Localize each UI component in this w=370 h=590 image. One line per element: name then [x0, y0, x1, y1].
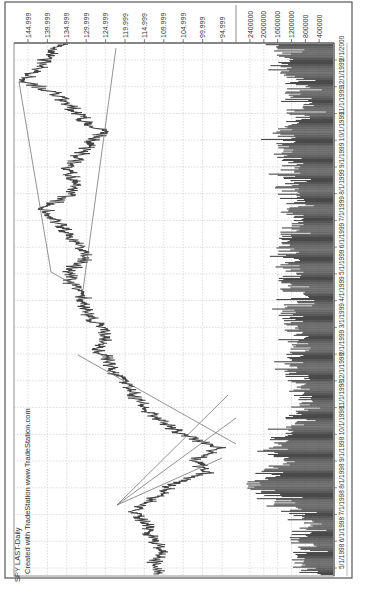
volume-tick-label: 400000 [316, 15, 323, 38]
price-tick-label: 139.999 [44, 13, 51, 38]
price-tick-label: 109.999 [160, 13, 167, 38]
date-tick-label: 10/1/1998 [338, 406, 345, 435]
date-tick-label: 6/1/1999 [338, 222, 345, 248]
date-tick-label: 11/1/1999 [338, 86, 345, 115]
price-tick-label: 134.999 [63, 13, 70, 38]
volume-tick-label: 1600000 [274, 11, 281, 38]
date-tick-label: 9/1/1998 [338, 436, 345, 462]
date-tick-label: 2/1/2000 [338, 35, 345, 61]
date-tick-label: 3/1/1999 [338, 303, 345, 329]
price-tick-label: 94.999 [219, 16, 226, 38]
date-tick-label: 11/1/1998 [338, 380, 345, 409]
price-tick-label: 104.999 [180, 13, 187, 38]
volume-tick-label: 2400000 [247, 11, 254, 38]
price-tick-label: 144.999 [25, 13, 32, 38]
price-tick-label: 124.999 [102, 13, 109, 38]
chart-credit: Created with TradeStation www.TradeStati… [23, 408, 32, 574]
date-tick-label: 5/1/1998 [338, 543, 345, 569]
date-tick-label: 8/1/1998 [338, 463, 345, 489]
date-tick-label: 4/1/1999 [338, 276, 345, 302]
date-tick-label: 7/1/1999 [338, 196, 345, 222]
chart: 144.999139.999134.999129.999124.999119.9… [0, 0, 370, 590]
date-tick-label: 12/1/1999 [338, 58, 345, 87]
volume-tick-label: 800000 [302, 15, 309, 38]
price-tick-label: 119.999 [122, 13, 129, 38]
date-tick-label: 12/1/1998 [338, 353, 345, 382]
date-tick-label: 7/1/1998 [338, 490, 345, 516]
date-tick-label: 10/1/1999 [338, 112, 345, 141]
date-tick-label: 2/1/1999 [338, 329, 345, 355]
price-tick-label: 114.999 [141, 13, 148, 38]
date-tick-label: 6/1/1998 [338, 517, 345, 543]
price-tick-label: 99.999 [199, 16, 206, 38]
date-tick-label: 8/1/1999 [338, 169, 345, 195]
date-tick-label: 5/1/1999 [338, 249, 345, 275]
chart-title: SPY LAST-Daily [13, 527, 22, 582]
date-tick-label: 9/1/1999 [338, 142, 345, 168]
volume-tick-label: 1200000 [288, 11, 295, 38]
volume-tick-label: 2000000 [260, 11, 267, 38]
price-tick-label: 129.999 [83, 13, 90, 38]
